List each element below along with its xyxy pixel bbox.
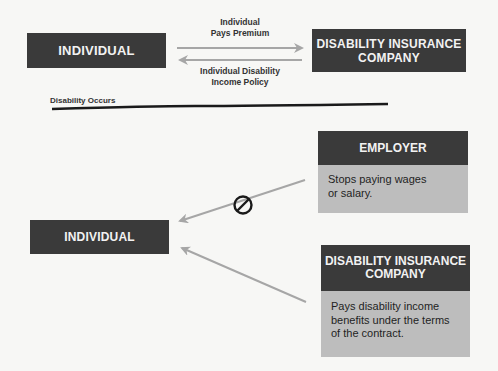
employer-card: EMPLOYER Stops paying wages or salary. [318, 131, 468, 213]
company-card-title: DISABILITY INSURANCE COMPANY [321, 245, 470, 291]
company-label-line1: DISABILITY INSURANCE [316, 37, 461, 51]
individual-box-bottom: INDIVIDUAL [30, 220, 169, 254]
company-card-title-line2: COMPANY [365, 268, 425, 281]
company-label-line2: COMPANY [358, 51, 420, 65]
prohibited-icon [235, 197, 252, 214]
individual-box-top: INDIVIDUAL [27, 33, 166, 68]
policy-label-line2: Income Policy [185, 77, 295, 88]
premium-label: Individual Pays Premium [190, 17, 290, 39]
premium-label-line1: Individual [190, 17, 290, 28]
employer-arrow [180, 180, 305, 221]
disability-occurs-label: Disability Occurs [50, 95, 115, 106]
individual-label-bottom: INDIVIDUAL [64, 230, 135, 244]
insurance-company-box-top: DISABILITY INSURANCE COMPANY [312, 29, 466, 72]
individual-label: INDIVIDUAL [58, 43, 134, 58]
company-arrow [182, 248, 306, 302]
premium-label-line2: Pays Premium [190, 28, 290, 39]
company-card-body: Pays disability income benefits under th… [321, 291, 470, 349]
policy-label: Individual Disability Income Policy [185, 66, 295, 88]
employer-card-body: Stops paying wages or salary. [318, 165, 468, 208]
insurance-company-card: DISABILITY INSURANCE COMPANY Pays disabi… [321, 245, 470, 357]
employer-card-title: EMPLOYER [318, 131, 468, 165]
policy-label-line1: Individual Disability [185, 66, 295, 77]
